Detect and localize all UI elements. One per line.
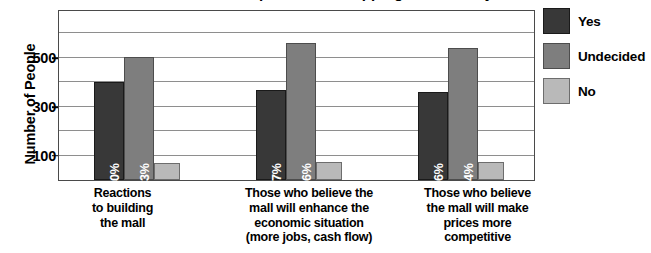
chart-legend: Yes Undecided No — [543, 8, 647, 113]
category-label-line: competitive — [395, 230, 560, 245]
bar-undecided-group-3[interactable]: 54% — [448, 48, 478, 180]
bar-label-undecided-group-3: 54% — [451, 163, 464, 187]
y-tick-label-300: 300 — [16, 99, 56, 115]
chart-screenshot: Public Opinion on Shopping Mall Survey N… — [0, 0, 651, 253]
bar-undecided-group-2[interactable]: 56% — [286, 43, 316, 180]
bar-yes-group-1[interactable]: 40% — [94, 82, 124, 180]
bar-label-undecided-group-1: 53% — [127, 163, 140, 187]
bar-label-yes-group-1: 40% — [97, 163, 110, 187]
bar-group-economic: 37% 56% — [253, 11, 373, 180]
category-label-line: the mall will make — [395, 201, 560, 216]
legend-item-no[interactable]: No — [543, 78, 647, 104]
legend-label-yes: Yes — [578, 14, 601, 29]
y-axis-ticks: 500 300 100 — [12, 0, 56, 253]
legend-label-undecided: Undecided — [578, 49, 645, 64]
bar-undecided-group-1[interactable]: 53% — [124, 57, 154, 180]
category-label-line: (more jobs, cash flow) — [213, 230, 405, 245]
bar-label-yes-group-2: 37% — [259, 163, 272, 187]
bar-no-group-3[interactable] — [478, 162, 504, 180]
bar-yes-group-3[interactable]: 36% — [418, 92, 448, 180]
plot-area: 40% 53% 37% 56% 36% 54% — [58, 10, 535, 181]
bar-no-group-1[interactable] — [154, 163, 180, 180]
category-label-reactions: Reactions to building the mall — [60, 186, 185, 230]
legend-swatch-undecided-icon — [543, 43, 570, 69]
category-label-line: to building — [60, 201, 185, 216]
category-label-line: Reactions — [60, 186, 185, 201]
chart-title: Public Opinion on Shopping Mall Survey — [180, 0, 510, 2]
category-label-economic: Those who believe the mall will enhance … — [213, 186, 405, 245]
category-label-line: the mall — [60, 216, 185, 231]
bar-yes-group-2[interactable]: 37% — [256, 90, 286, 180]
y-tick-label-100: 100 — [16, 148, 56, 164]
legend-item-yes[interactable]: Yes — [543, 8, 647, 34]
legend-swatch-no-icon — [543, 78, 570, 104]
legend-label-no: No — [578, 84, 596, 99]
category-label-line: Those who believe — [395, 186, 560, 201]
category-label-line: Those who believe the — [213, 186, 405, 201]
legend-item-undecided[interactable]: Undecided — [543, 43, 647, 69]
bar-group-reactions: 40% 53% — [91, 11, 211, 180]
category-label-line: prices more — [395, 216, 560, 231]
bar-label-yes-group-3: 36% — [421, 163, 434, 187]
bar-group-prices: 36% 54% — [415, 11, 535, 180]
bar-label-undecided-group-2: 56% — [289, 163, 302, 187]
legend-swatch-yes-icon — [543, 8, 570, 34]
category-label-prices: Those who believe the mall will make pri… — [395, 186, 560, 245]
bar-no-group-2[interactable] — [316, 162, 342, 180]
category-label-line: economic situation — [213, 216, 405, 231]
category-label-line: mall will enhance the — [213, 201, 405, 216]
y-tick-label-500: 500 — [16, 50, 56, 66]
